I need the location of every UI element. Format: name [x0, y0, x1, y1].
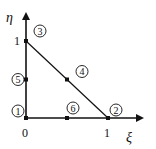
node-6-point [65, 116, 69, 120]
xi-tick-label: 1 [104, 126, 110, 140]
node-2-point [106, 116, 110, 120]
node-4-point [65, 78, 69, 82]
node-1-point [24, 116, 28, 120]
node-5-label: 5 [16, 74, 21, 85]
node-4-label: 4 [80, 66, 85, 77]
origin-label: 0 [22, 126, 28, 140]
xi-axis-label: ξ [126, 130, 132, 145]
eta-tick-label: 1 [14, 34, 20, 48]
node-1-label: 1 [16, 106, 21, 117]
eta-axis-label: η [6, 10, 13, 25]
node-5-point [24, 78, 28, 82]
nodes-group: 123456 [12, 25, 122, 120]
node-3-label: 3 [38, 26, 43, 37]
node-3-point [24, 39, 28, 43]
node-2-label: 2 [114, 105, 119, 116]
node-6-label: 6 [71, 103, 76, 114]
element-diagram: η ξ 0 1 1 123456 [0, 0, 156, 149]
